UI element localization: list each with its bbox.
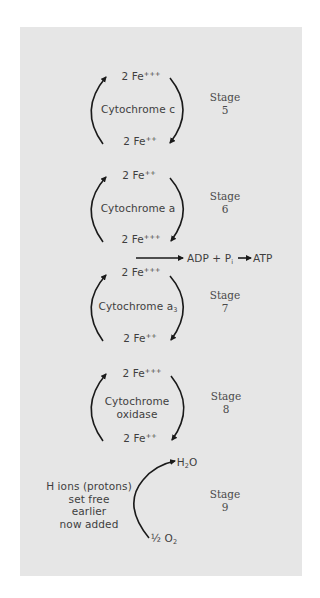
stage6-bottom-iron: 2 Fe+++	[122, 233, 161, 245]
atp-reaction: ADP + Pi	[187, 252, 233, 264]
stage9-product-water: H2O	[177, 456, 198, 468]
stage7-top-iron: 2 Fe+++	[122, 266, 161, 278]
stage7-bottom-iron: 2 Fe++	[123, 332, 156, 344]
stage8-label: Stage8	[211, 390, 242, 416]
stage9-curve-arrow	[134, 461, 175, 538]
stage6-carrier: Cytochrome a	[101, 202, 176, 214]
stage9-reactant-oxygen: ½ O2	[151, 532, 177, 544]
stage9-note: H ions (protons) set free earlier now ad…	[46, 480, 132, 530]
stage6-label: Stage6	[210, 190, 241, 216]
stage5-label: Stage5	[210, 91, 241, 117]
stage9-label: Stage9	[210, 488, 241, 514]
stage8-top-iron: 2 Fe+++	[123, 367, 162, 379]
stage8-carrier: Cytochromeoxidase	[105, 395, 170, 421]
stage7-label: Stage7	[210, 289, 241, 315]
stage5-bottom-iron: 2 Fe++	[123, 135, 156, 147]
stage5-carrier: Cytochrome c	[101, 103, 175, 115]
stage8-bottom-iron: 2 Fe++	[123, 432, 156, 444]
stage8-right-arc-arrow	[171, 376, 184, 440]
stage5-top-iron: 2 Fe+++	[122, 70, 161, 82]
atp-product: ATP	[253, 252, 272, 264]
stage6-top-iron: 2 Fe++	[122, 169, 155, 181]
stage7-carrier: Cytochrome a3	[99, 300, 178, 312]
